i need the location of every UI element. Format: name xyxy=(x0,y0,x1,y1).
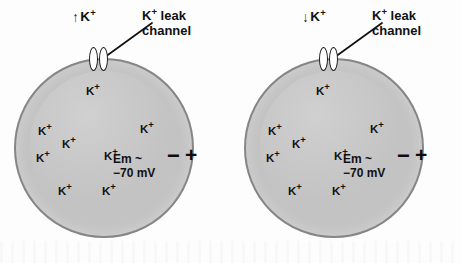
channel-pore-left xyxy=(319,47,328,71)
outside-positive-charge-right: + xyxy=(415,144,427,165)
potassium-ion-label: K+ xyxy=(38,125,52,137)
leak-channel-icon-right xyxy=(318,47,342,71)
ion-charge: + xyxy=(300,134,306,145)
ion-charge: + xyxy=(70,134,76,145)
ion-charge: + xyxy=(324,81,330,92)
ion-charge: + xyxy=(44,148,50,159)
em-label-right: Em ~ −70 mV xyxy=(343,152,385,180)
figure-canvas: ↑K+ K+ leak channel K+K+K+K+K+K+K+K+ Em … xyxy=(0,0,461,263)
channel-pore-right xyxy=(99,47,108,71)
em-line-2: −70 mV xyxy=(343,166,385,180)
em-label-left: Em ~ −70 mV xyxy=(113,152,155,180)
em-line-1: Em ~ xyxy=(343,152,385,166)
leak-channel-icon-left xyxy=(88,47,112,71)
channel-pore-left xyxy=(89,47,98,71)
flux-arrow-icon: ↓ xyxy=(303,9,309,25)
ion-charge: + xyxy=(274,148,280,159)
ion-charge: + xyxy=(66,181,72,192)
flux-ion-charge: + xyxy=(90,7,96,18)
outside-positive-charge-left: + xyxy=(185,144,197,165)
flux-label-left: ↑K+ xyxy=(72,8,96,24)
ion-charge: + xyxy=(378,119,384,130)
channel-pore-right xyxy=(329,47,338,71)
potassium-ion-label: K+ xyxy=(62,138,76,150)
ion-charge: + xyxy=(94,81,100,92)
potassium-ion-label: K+ xyxy=(102,185,116,197)
panel-left: ↑K+ K+ leak channel K+K+K+K+K+K+K+K+ Em … xyxy=(0,0,230,263)
channel-label-right: K+ leak channel xyxy=(372,8,421,38)
flux-arrow-icon: ↑ xyxy=(73,9,79,25)
potassium-ion-label: K+ xyxy=(36,152,50,164)
potassium-ion-label: K+ xyxy=(370,123,384,135)
channel-label-line2: channel xyxy=(372,23,421,38)
potassium-ion-label: K+ xyxy=(86,85,100,97)
ion-charge: + xyxy=(276,121,282,132)
potassium-ion-label: K+ xyxy=(316,85,330,97)
ion-charge: + xyxy=(340,181,346,192)
ion-charge: + xyxy=(296,181,302,192)
em-line-1: Em ~ xyxy=(113,152,155,166)
potassium-ion-label: K+ xyxy=(288,185,302,197)
ion-charge: + xyxy=(148,119,154,130)
channel-label-left: K+ leak channel xyxy=(142,8,191,38)
flux-label-right: ↓K+ xyxy=(302,8,326,24)
flux-ion-symbol: K xyxy=(310,9,320,24)
inside-negative-charge-right: − xyxy=(397,145,410,167)
channel-label-line1: K+ leak xyxy=(142,8,191,23)
flux-ion-symbol: K xyxy=(80,9,90,24)
channel-label-line1: K+ leak xyxy=(372,8,421,23)
panel-right: ↓K+ K+ leak channel K+K+K+K+K+K+K+K+ Em … xyxy=(230,0,460,263)
potassium-ion-label: K+ xyxy=(58,185,72,197)
em-line-2: −70 mV xyxy=(113,166,155,180)
potassium-ion-label: K+ xyxy=(266,152,280,164)
potassium-ion-label: K+ xyxy=(268,125,282,137)
potassium-ion-label: K+ xyxy=(140,123,154,135)
inside-negative-charge-left: − xyxy=(167,145,180,167)
ion-charge: + xyxy=(46,121,52,132)
ion-charge: + xyxy=(110,181,116,192)
potassium-ion-label: K+ xyxy=(292,138,306,150)
potassium-ion-label: K+ xyxy=(332,185,346,197)
channel-label-line2: channel xyxy=(142,23,191,38)
flux-ion-charge: + xyxy=(320,7,326,18)
